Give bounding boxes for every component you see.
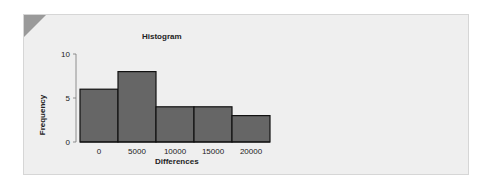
histogram-plot: 051005000100001500020000 [24, 15, 470, 176]
x-tick-label: 10000 [164, 147, 187, 156]
histogram-bar [156, 107, 194, 142]
histogram-bar [194, 107, 232, 142]
histogram-bar [118, 72, 156, 142]
histogram-card: Histogram Frequency Differences 05100500… [23, 14, 469, 175]
x-tick-label: 15000 [202, 147, 225, 156]
y-tick-label: 5 [66, 94, 71, 103]
y-tick-label: 0 [66, 138, 71, 147]
histogram-bar [80, 89, 118, 142]
histogram-bar [232, 116, 270, 142]
x-tick-label: 20000 [240, 147, 263, 156]
x-tick-label: 5000 [128, 147, 146, 156]
x-tick-label: 0 [97, 147, 102, 156]
y-tick-label: 10 [61, 50, 70, 59]
